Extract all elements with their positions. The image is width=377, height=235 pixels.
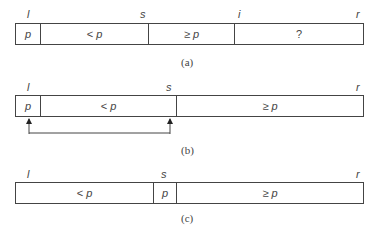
cell-label: p <box>162 187 168 199</box>
cell-label: p <box>86 187 92 199</box>
index-l-label: l <box>27 168 29 180</box>
array-bar: < p p ≥ p <box>15 182 364 204</box>
caption: (b) <box>181 144 194 156</box>
greater-equal-pivot-cell: ≥ p <box>176 183 363 203</box>
index-s-label: s <box>161 168 167 180</box>
index-r-label: r <box>356 168 360 180</box>
cell-operator: < <box>77 187 83 199</box>
arrowhead-left-icon <box>26 118 32 124</box>
caption: (c) <box>181 212 193 224</box>
cell-label: p <box>271 187 277 199</box>
arrowhead-right-icon <box>167 118 173 124</box>
pivot-cell: p <box>153 183 176 203</box>
cell-operator: ≥ <box>262 187 268 199</box>
less-than-pivot-cell: < p <box>16 183 153 203</box>
